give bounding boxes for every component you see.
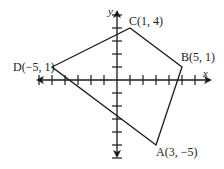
- vertex-label-b: B(5, 1): [181, 50, 215, 64]
- x-axis-label: x: [202, 67, 208, 79]
- vertex-label-a: A(3, −5): [156, 145, 197, 159]
- vertex-label-d: D(−5, 1): [13, 60, 54, 74]
- y-axis-label: y: [107, 5, 113, 17]
- plane-svg: x y C(1, 4) B(5, 1) D(−5, 1) A(3, −5): [0, 0, 224, 169]
- coordinate-plane-figure: x y C(1, 4) B(5, 1) D(−5, 1) A(3, −5): [0, 0, 224, 169]
- vertex-label-c: C(1, 4): [129, 14, 163, 28]
